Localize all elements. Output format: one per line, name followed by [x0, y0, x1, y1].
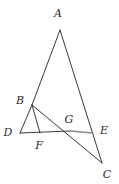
segment-ac	[60, 30, 102, 163]
segment-bd	[20, 105, 32, 133]
point-label-b: B	[15, 94, 24, 107]
point-label-g: G	[65, 113, 74, 126]
segment-dg	[20, 131, 70, 133]
label-group: A B C D E F G	[3, 7, 112, 181]
geometry-figure: A B C D E F G	[0, 0, 119, 184]
point-label-d: D	[3, 126, 13, 139]
point-label-e: E	[99, 124, 108, 137]
segment-bf	[32, 105, 40, 133]
point-label-c: C	[103, 168, 112, 181]
segment-group	[20, 30, 102, 163]
segment-ab	[32, 30, 60, 105]
point-label-f: F	[34, 139, 43, 152]
point-label-a: A	[53, 7, 62, 20]
geometry-canvas: A B C D E F G	[0, 0, 119, 184]
segment-ge	[70, 131, 93, 133]
